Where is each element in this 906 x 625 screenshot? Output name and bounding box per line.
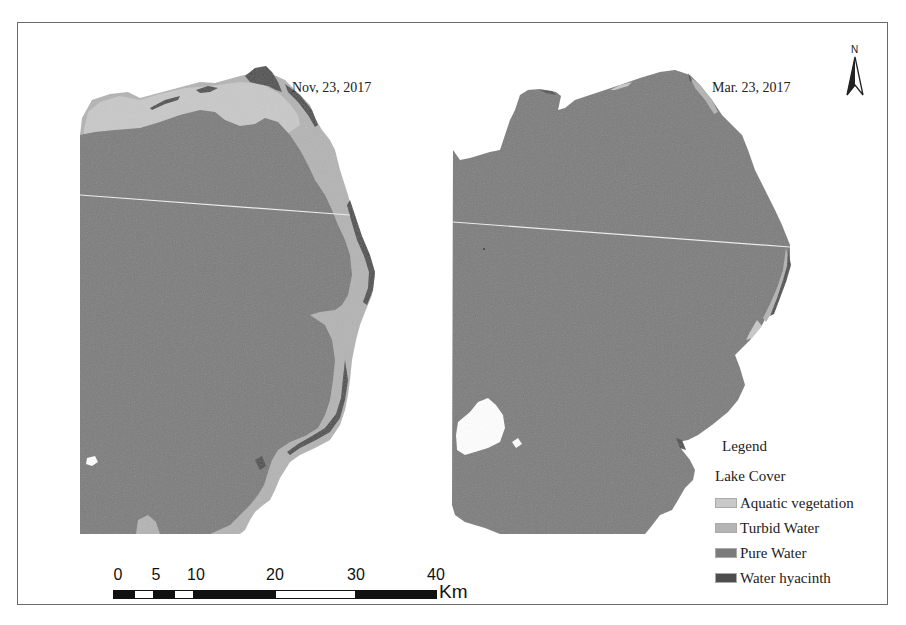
legend-item-aquatic-vegetation: Aquatic vegetation (715, 494, 854, 512)
north-arrow-icon (843, 45, 867, 99)
swatch-aquatic-vegetation (715, 498, 737, 508)
legend-title: Legend (722, 438, 767, 455)
scale-tick: 5 (152, 566, 161, 584)
legend-item-pure-water: Pure Water (715, 544, 806, 562)
pure-water-region (452, 70, 790, 534)
scale-bar: 0 5 10 20 30 40 Km (113, 566, 473, 606)
scale-tick: 20 (266, 566, 284, 584)
legend-subtitle: Lake Cover (715, 468, 785, 485)
map-date-label-left: Nov, 23, 2017 (292, 80, 371, 96)
scale-unit: Km (439, 581, 468, 603)
scale-tick: 0 (114, 566, 123, 584)
scale-tick: 30 (347, 566, 365, 584)
swatch-turbid-water (715, 523, 737, 533)
scale-tick: 10 (187, 566, 205, 584)
legend-item-water-hyacinth: Water hyacinth (715, 569, 831, 587)
legend-item-turbid-water: Turbid Water (715, 519, 819, 537)
map-mar-2017 (452, 70, 791, 534)
legend-label: Pure Water (740, 545, 806, 562)
legend-label: Turbid Water (740, 520, 819, 537)
legend-label: Water hyacinth (740, 570, 831, 587)
swatch-water-hyacinth (715, 573, 737, 583)
map-date-label-right: Mar. 23, 2017 (712, 80, 791, 96)
legend-label: Aquatic vegetation (740, 495, 854, 512)
map-nov-2017 (80, 66, 375, 534)
swatch-pure-water (715, 548, 737, 558)
pure-water-region (80, 110, 352, 534)
